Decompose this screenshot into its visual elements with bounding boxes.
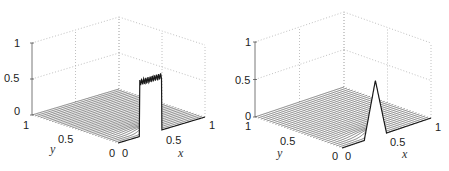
left-z-tick-0.5: 0.5 (4, 72, 19, 84)
left-y-tick-1: 1 (23, 119, 29, 131)
right-y-axis-label: y (276, 146, 283, 160)
left-z-tick-1: 1 (14, 37, 20, 49)
left-z-tick-0: 0 (14, 105, 20, 117)
right-z-tick-0.5: 0.5 (235, 74, 250, 86)
left-y-tick-0.5: 0.5 (58, 133, 73, 145)
right-x-tick-0: 0 (345, 150, 351, 162)
right-axes (253, 42, 257, 117)
left-x-tick-0.5: 0.5 (166, 134, 181, 146)
right-y-tick-1: 1 (245, 120, 251, 132)
right-grid-lines (255, 12, 431, 118)
left-grid-lines (32, 17, 205, 117)
left-x-tick-1: 1 (209, 119, 215, 131)
right-x-tick-1: 1 (435, 121, 441, 133)
right-surface-plot: 1 0.5 0 1 0.5 0 y 0 0.5 1 x (235, 12, 441, 162)
figure: 1 0.5 0 1 0.5 0 y 0 0.5 1 x 1 0.5 0 1 0.… (0, 0, 449, 171)
left-x-axis-label: x (177, 146, 184, 160)
left-axes (30, 43, 34, 115)
left-surface-plot: 1 0.5 0 1 0.5 0 y 0 0.5 1 x (4, 17, 215, 160)
right-z-tick-1: 1 (245, 36, 251, 48)
right-y-tick-0: 0 (332, 150, 338, 162)
left-y-axis-label: y (49, 142, 56, 156)
left-y-tick-0: 0 (109, 147, 115, 159)
left-x-tick-0: 0 (122, 147, 128, 159)
right-x-axis-label: x (401, 147, 408, 161)
